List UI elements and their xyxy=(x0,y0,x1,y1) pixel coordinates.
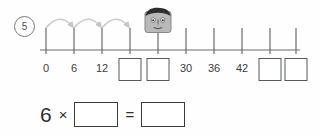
equation-left-operand: 6 xyxy=(40,104,52,125)
equation-row: 6 × = xyxy=(40,98,185,130)
tick-label-42: 42 xyxy=(229,63,255,74)
tick-label-6: 6 xyxy=(61,63,87,74)
number-line-blank-box-8[interactable] xyxy=(259,58,282,81)
equals-sign: = xyxy=(125,107,134,122)
worksheet-page: 5 0612303642 6 × = xyxy=(0,0,320,135)
jump-arc-0 xyxy=(46,19,73,28)
multiplication-sign: × xyxy=(59,107,68,122)
tick-label-12: 12 xyxy=(89,63,115,74)
jump-arc-2 xyxy=(102,19,129,28)
number-line-blank-box-9[interactable] xyxy=(285,58,308,81)
equation-result-blank-box[interactable] xyxy=(141,102,185,127)
tick-label-0: 0 xyxy=(33,63,59,74)
number-line-blank-box-4[interactable] xyxy=(147,58,170,81)
jump-arcs-group xyxy=(46,19,129,28)
equation-first-blank-box[interactable] xyxy=(74,102,118,127)
jump-arc-1 xyxy=(74,19,101,28)
cartoon-head-icon xyxy=(143,7,173,34)
tick-label-30: 30 xyxy=(173,63,199,74)
number-line-blank-box-3[interactable] xyxy=(119,58,142,81)
tick-label-36: 36 xyxy=(201,63,227,74)
